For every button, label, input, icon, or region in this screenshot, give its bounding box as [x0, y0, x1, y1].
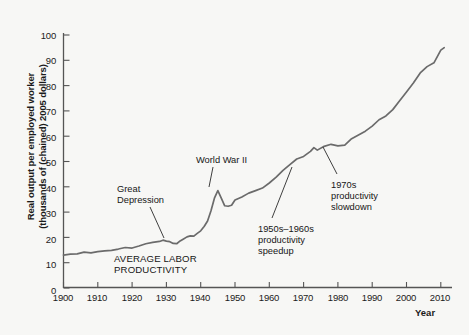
leader-line-world-war-ii [209, 167, 213, 187]
leader-line-productivity-slowdown [323, 147, 337, 174]
chart-svg [0, 0, 469, 335]
annotation-world-war-ii: World War II [196, 155, 247, 166]
annotation-average-labor-productivity: AVERAGE LABOR PRODUCTIVITY [114, 253, 197, 275]
leader-line-great-depression [150, 207, 164, 238]
annotation-great-depression: Great Depression [117, 184, 164, 206]
chart-figure: Real output per employed worker (thousan… [0, 0, 469, 335]
y-axis-ticks [64, 35, 70, 288]
annotation-productivity-slowdown: 1970s productivity slowdown [331, 180, 378, 214]
data-line-average-labor-productivity [64, 48, 445, 255]
leader-line-productivity-speedup [272, 167, 292, 218]
annotation-productivity-speedup: 1950s–1960s productivity speedup [258, 224, 314, 258]
